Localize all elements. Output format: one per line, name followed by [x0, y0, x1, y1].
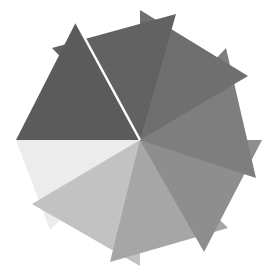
pinwheel-svg: [0, 0, 269, 272]
pinwheel-figure: [0, 0, 269, 272]
